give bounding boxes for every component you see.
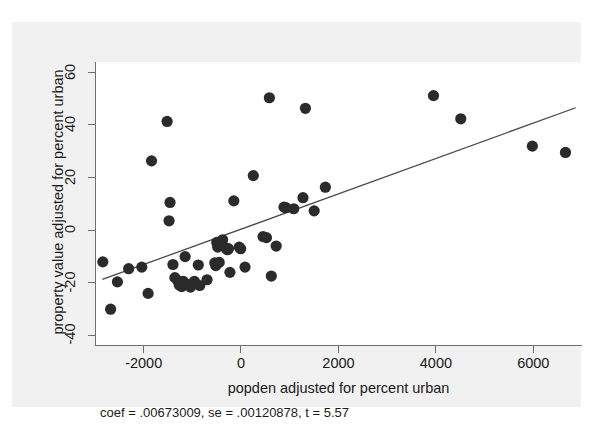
scatter-point	[228, 195, 239, 206]
scatter-point	[162, 116, 173, 127]
figure-page: — property value adjusted for percent ur…	[0, 0, 593, 429]
y-axis-tick	[88, 177, 95, 178]
scatter-plot-svg	[96, 62, 583, 346]
x-axis-tick-label: -2000	[104, 355, 184, 371]
scatter-point	[309, 205, 320, 216]
scatter-point	[112, 276, 123, 287]
scatter-point	[180, 251, 191, 262]
y-axis-tick	[88, 230, 95, 231]
y-axis-title: property value adjusted for percent urba…	[50, 52, 66, 352]
plot-area	[95, 62, 582, 346]
x-axis-title: popden adjusted for percent urban	[95, 380, 582, 396]
scatter-point	[163, 215, 174, 226]
y-axis-tick-label: -40	[62, 320, 78, 348]
scatter-point	[105, 304, 116, 315]
y-axis-tick-label: 40	[62, 110, 78, 138]
scatter-point	[560, 147, 571, 158]
y-axis-tick	[88, 72, 95, 73]
regression-fit-line	[102, 108, 575, 280]
y-axis-tick-label: 60	[62, 58, 78, 86]
y-axis-tick	[88, 335, 95, 336]
regression-annotation: coef = .00673009, se = .00120878, t = 5.…	[100, 405, 349, 420]
x-axis-tick	[143, 346, 144, 353]
scatter-point	[428, 90, 439, 101]
cropped-text-sliver: —	[0, 0, 593, 4]
scatter-point	[136, 262, 147, 273]
scatter-point	[235, 243, 246, 254]
scatter-point	[164, 197, 175, 208]
x-axis-tick	[338, 346, 339, 353]
scatter-point	[455, 113, 466, 124]
scatter-point	[143, 288, 154, 299]
scatter-point	[223, 243, 234, 254]
scatter-point	[167, 259, 178, 270]
x-axis-tick-label: 2000	[299, 355, 379, 371]
y-axis-tick	[88, 124, 95, 125]
scatter-point	[248, 170, 259, 181]
y-axis-tick-label: 0	[62, 215, 78, 243]
scatter-point	[300, 103, 311, 114]
scatter-point	[297, 192, 308, 203]
scatter-point	[97, 256, 108, 267]
scatter-point	[288, 203, 299, 214]
scatter-point	[239, 262, 250, 273]
cropped-figure-above: —	[0, 0, 593, 5]
x-axis-tick	[240, 346, 241, 353]
y-axis-tick-label: -20	[62, 268, 78, 296]
scatter-point	[264, 92, 275, 103]
scatter-point	[266, 270, 277, 281]
scatter-point	[527, 141, 538, 152]
scatter-point	[201, 274, 212, 285]
scatter-point	[193, 259, 204, 270]
scatter-point	[146, 155, 157, 166]
scatter-point	[123, 263, 134, 274]
scatter-point	[261, 232, 272, 243]
y-axis-tick	[88, 282, 95, 283]
x-axis-tick-label: 6000	[493, 355, 573, 371]
y-axis-tick-label: 20	[62, 163, 78, 191]
x-axis-tick	[435, 346, 436, 353]
x-axis-tick	[533, 346, 534, 353]
chart-figure-card: property value adjusted for percent urba…	[12, 22, 581, 407]
scatter-point	[320, 182, 331, 193]
x-axis-tick-label: 0	[201, 355, 281, 371]
x-axis-tick-label: 4000	[396, 355, 476, 371]
scatter-point	[214, 257, 225, 268]
scatter-point	[271, 240, 282, 251]
scatter-point	[224, 267, 235, 278]
